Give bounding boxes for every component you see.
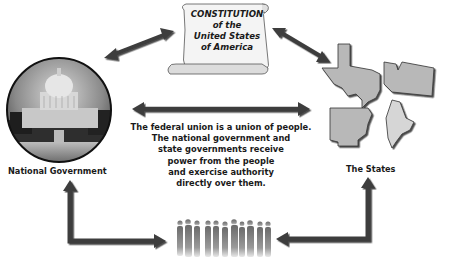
the-states-label: The States [346,164,396,174]
washington-shape [384,62,434,96]
capitol-photo [5,58,115,167]
national-government-label: National Government [8,166,107,176]
description-line: state governments receive [128,144,314,155]
description-line: directly over them. [128,178,314,189]
arrow-national-states [132,102,310,116]
constitution-line: CONSTITUTION [186,9,268,20]
arkansas-shape [330,108,372,146]
constitution-line: of the [186,20,268,31]
description-line: and exercise authority [128,167,314,178]
description-line: power from the people [128,156,314,167]
maine-shape [386,100,414,148]
constitution-title: CONSTITUTION of the United States of Ame… [186,9,268,53]
states-map-shapes [322,44,434,148]
description-line: The federal union is a union of people. [128,122,314,133]
people-crowd [177,219,271,257]
arrow-constitution-states [272,28,330,62]
federal-union-description: The federal union is a union of people. … [128,122,314,189]
texas-shape [322,44,380,108]
description-line: The national government and [128,133,314,144]
constitution-line: United States [186,31,268,42]
constitution-line: of America [186,42,268,53]
arrow-capitol-constitution [104,28,174,60]
arrow-people-national [63,180,166,248]
